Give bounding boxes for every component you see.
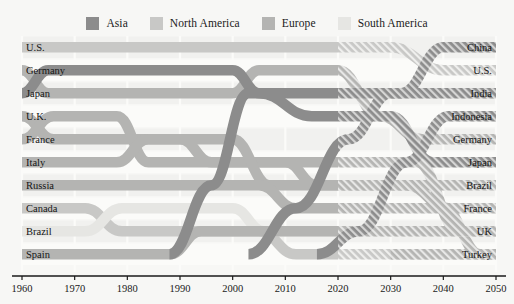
right-label-india: India (470, 88, 492, 99)
chart-legend: AsiaNorth AmericaEuropeSouth America (0, 14, 514, 32)
right-label-us: U.S. (473, 65, 492, 76)
x-tick-label-2050: 2050 (486, 283, 507, 294)
bump-chart-svg: U.S.GermanyJapanU.K.FranceItalyRussiaCan… (0, 36, 514, 304)
x-tick-label-1980: 1980 (117, 283, 138, 294)
legend-item-asia[interactable]: Asia (86, 17, 127, 30)
legend-item-south-america[interactable]: South America (338, 17, 428, 30)
legend-label-asia: Asia (106, 17, 127, 29)
x-tick-label-1990: 1990 (170, 283, 191, 294)
left-label-italy: Italy (26, 157, 46, 168)
legend-swatch-asia (86, 17, 99, 30)
left-label-uk: U.K. (26, 111, 46, 122)
legend-item-europe[interactable]: Europe (262, 17, 316, 30)
right-label-japan: Japan (468, 157, 493, 168)
x-tick-label-1970: 1970 (64, 283, 85, 294)
left-label-russia: Russia (26, 180, 54, 191)
plot-area: U.S.GermanyJapanU.K.FranceItalyRussiaCan… (0, 36, 514, 304)
left-label-france: France (26, 134, 55, 145)
left-label-canada: Canada (26, 203, 58, 214)
x-axis: 1960197019801990200020102020203020402050 (12, 276, 507, 294)
left-label-us: U.S. (26, 42, 45, 53)
left-label-spain: Spain (26, 249, 51, 260)
right-label-france: France (463, 203, 492, 214)
legend-swatch-north-america (150, 17, 163, 30)
left-label-japan: Japan (26, 88, 51, 99)
legend-label-europe: Europe (282, 17, 316, 29)
legend-swatch-europe (262, 17, 275, 30)
left-label-brazil: Brazil (26, 226, 52, 237)
x-tick-label-2030: 2030 (380, 283, 401, 294)
legend-swatch-south-america (338, 17, 351, 30)
right-label-china: China (467, 42, 492, 53)
right-label-brazil: Brazil (466, 180, 492, 191)
right-label-germany: Germany (453, 134, 493, 145)
legend-label-north-america: North America (170, 17, 240, 29)
right-label-uk: UK (477, 226, 493, 237)
legend-label-south-america: South America (358, 17, 428, 29)
x-tick-label-1960: 1960 (12, 283, 33, 294)
legend-item-north-america[interactable]: North America (150, 17, 240, 30)
bump-chart-figure: AsiaNorth AmericaEuropeSouth America (0, 0, 514, 304)
right-label-indonesia: Indonesia (451, 111, 492, 122)
x-tick-label-2010: 2010 (275, 283, 296, 294)
left-label-germany: Germany (26, 65, 66, 76)
x-tick-label-2000: 2000 (222, 283, 243, 294)
x-tick-label-2040: 2040 (433, 283, 454, 294)
x-tick-label-2020: 2020 (328, 283, 349, 294)
right-label-turkey: Turkey (462, 249, 493, 260)
